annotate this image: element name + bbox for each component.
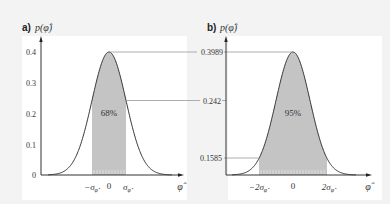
panel-b-ylabel: p(φ̂) <box>219 22 238 34</box>
panel-b-label: b) <box>207 22 216 33</box>
panel-a-shaded-label: 68% <box>101 108 118 118</box>
panel-a-ytick: 0.2 <box>26 110 36 119</box>
ref-label-0.3989: 0.3989 <box>201 48 223 57</box>
panel-a-xtick-zero: 0 <box>107 181 112 191</box>
normal-distribution-figure: 0.4 0.3 0.2 0.1 0 −σφ̂ 0 σφ̂ φ̂ 68% a) p… <box>0 0 390 204</box>
panel-a-ytick: 0 <box>32 171 36 180</box>
ref-label-0.1585: 0.1585 <box>200 154 222 163</box>
panel-b-shaded-label: 95% <box>285 108 302 118</box>
panel-a-label: a) <box>22 22 31 33</box>
panel-a-ytick: 0.3 <box>26 79 36 88</box>
panel-b-y-arrow-icon <box>224 36 227 42</box>
ref-label-0.242: 0.242 <box>203 97 221 106</box>
panel-a-ytick: 0.4 <box>26 48 36 57</box>
panel-a-ytick: 0.1 <box>26 141 36 150</box>
panel-a-ylabel: p(φ̂) <box>34 22 53 34</box>
panel-b-xtick-zero: 0 <box>291 181 296 191</box>
